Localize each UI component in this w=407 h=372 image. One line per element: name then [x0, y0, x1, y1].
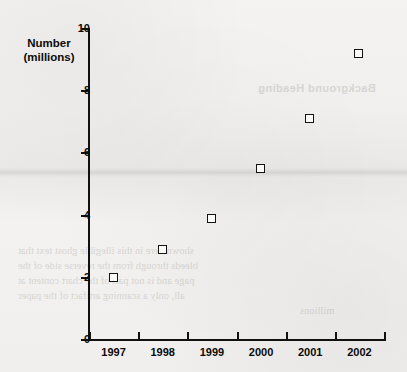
x-tick-mark — [237, 332, 239, 341]
y-tick-label-wrap: 8 — [50, 85, 90, 96]
y-tick-label-wrap: 6 — [50, 147, 90, 158]
y-tick-label: 6 — [68, 147, 90, 158]
y-tick-label-wrap: 2 — [50, 272, 90, 283]
data-point-marker — [207, 214, 216, 223]
y-tick-label: 2 — [68, 272, 90, 283]
y-tick-label-wrap: 4 — [50, 210, 90, 221]
scatter-chart: Number (millions) 0 2 4 6 8 10 1997 1998… — [0, 0, 407, 372]
y-tick-label: 10 — [68, 23, 90, 34]
data-point-marker — [305, 114, 314, 123]
y-tick-label: 4 — [68, 210, 90, 221]
x-tick-label-2002: 2002 — [329, 346, 389, 358]
y-tick-label-wrap: 0 — [50, 334, 90, 345]
x-tick-mark — [138, 332, 140, 341]
y-tick-label: 8 — [68, 85, 90, 96]
y-axis-title: Number (millions) — [12, 36, 86, 64]
x-tick-mark — [286, 332, 288, 341]
data-point-marker — [109, 273, 118, 282]
y-axis-title-line-1: Number — [12, 36, 86, 50]
y-tick-label: 0 — [68, 334, 90, 345]
y-axis-title-line-2: (millions) — [12, 50, 86, 64]
data-point-marker — [256, 164, 265, 173]
x-tick-mark — [335, 332, 337, 341]
data-point-marker — [354, 49, 363, 58]
x-tick-mark — [89, 332, 91, 341]
y-axis-line — [88, 28, 90, 341]
x-tick-mark — [384, 332, 386, 341]
data-point-marker — [158, 245, 167, 254]
x-tick-mark — [187, 332, 189, 341]
y-tick-label-wrap: 10 — [50, 23, 90, 34]
x-axis-line — [88, 339, 384, 341]
